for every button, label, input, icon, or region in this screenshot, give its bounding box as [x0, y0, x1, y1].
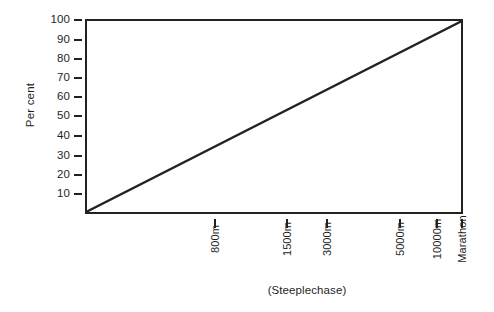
x-tick-label-800m: 800m [209, 225, 221, 253]
y-tick-label-90: 90 [57, 34, 70, 46]
dash-icon [74, 77, 82, 79]
y-tick-label-30: 30 [57, 150, 70, 162]
y-tick-40: 40 [57, 129, 85, 143]
y-tick-30: 30 [57, 149, 85, 163]
dash-icon [74, 58, 82, 60]
dash-icon [74, 193, 82, 195]
x-tick-marathon: Marathon [461, 219, 462, 228]
y-axis: Per cent 100 90 80 70 60 50 40 [0, 0, 85, 312]
x-tick-3000m: 3000m [326, 219, 327, 228]
x-tick-label-1500m: 1500m [281, 222, 293, 256]
dash-icon [74, 115, 82, 117]
x-tick-label-3000m: 3000m [321, 222, 333, 256]
y-axis-title: Per cent [21, 66, 39, 144]
series-line-segment [88, 22, 460, 211]
x-tick-5000m: 5000m [399, 219, 400, 228]
y-axis-title-label: Per cent [24, 83, 36, 127]
plot-area [85, 19, 463, 214]
y-tick-label-100: 100 [51, 14, 71, 26]
dash-icon [74, 135, 82, 137]
x-tick-800m: 800m [214, 219, 215, 228]
x-axis-note-label: (Steeplechase) [268, 284, 347, 296]
y-tick-label-60: 60 [57, 91, 70, 103]
y-tick-80: 80 [57, 52, 85, 66]
y-tick-60: 60 [57, 90, 85, 104]
y-tick-50: 50 [57, 109, 85, 123]
y-tick-label-20: 20 [57, 169, 70, 181]
dash-icon [74, 155, 82, 157]
dash-icon [74, 96, 82, 98]
y-tick-label-10: 10 [57, 188, 70, 200]
y-tick-10: 10 [57, 187, 85, 201]
y-tick-label-80: 80 [57, 53, 70, 65]
dash-icon [74, 174, 82, 176]
x-axis-note: (Steeplechase) [0, 284, 494, 296]
y-tick-70: 70 [57, 71, 85, 85]
x-tick-1500m: 1500m [286, 219, 287, 228]
series-line-aerobic [87, 21, 461, 212]
dash-icon [74, 39, 82, 41]
dash-icon [74, 19, 82, 21]
chart-figure: Per cent 100 90 80 70 60 50 40 [0, 0, 494, 312]
y-tick-100: 100 [51, 13, 86, 27]
x-tick-10000m: 10000m [436, 219, 437, 228]
x-tick-label-marathon: Marathon [456, 215, 468, 262]
y-tick-20: 20 [57, 168, 85, 182]
y-tick-label-70: 70 [57, 72, 70, 84]
y-tick-label-50: 50 [57, 110, 70, 122]
x-tick-label-5000m: 5000m [394, 222, 406, 256]
y-tick-label-40: 40 [57, 130, 70, 142]
y-tick-90: 90 [57, 33, 85, 47]
